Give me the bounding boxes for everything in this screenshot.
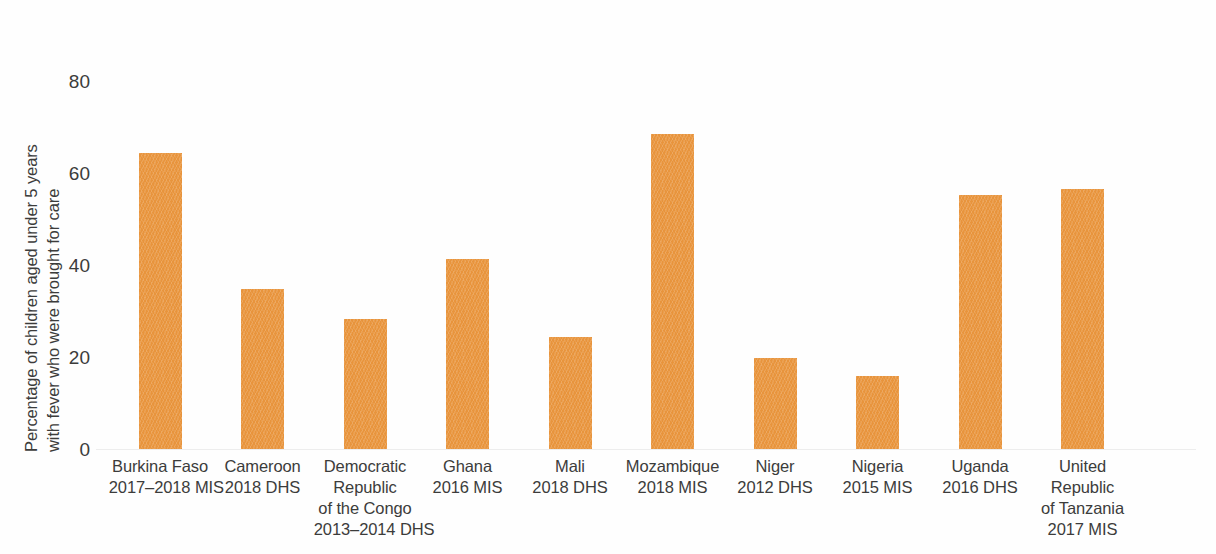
- x-axis-category-label-line: 2018 MIS: [621, 477, 724, 498]
- x-axis-category-label: Cameroon2018 DHS: [211, 456, 314, 498]
- x-axis-category-label: Uganda2016 DHS: [929, 456, 1032, 498]
- x-axis-category-label: Burkina Faso2017–2018 MIS: [109, 456, 212, 498]
- x-axis-category-label-line: Mozambique: [621, 456, 724, 477]
- x-axis-category-label-line: Burkina Faso: [109, 456, 212, 477]
- bar-slot: [651, 26, 694, 450]
- x-axis-category-label-line: United: [1031, 456, 1134, 477]
- x-axis-category-label: Niger2012 DHS: [724, 456, 827, 498]
- bar[interactable]: [754, 358, 797, 449]
- x-axis-category-label-line: Republic: [1031, 477, 1134, 498]
- y-axis-tick-labels: 020406080: [44, 0, 90, 470]
- y-axis-title-line-1: Percentage of children aged under 5 year…: [22, 144, 41, 452]
- bar-slot: [856, 26, 899, 450]
- y-tick-label: 80: [48, 72, 90, 91]
- x-axis-category-label-line: 2015 MIS: [826, 477, 929, 498]
- x-axis-category-label-line: 2016 DHS: [929, 477, 1032, 498]
- x-axis-category-label-line: 2017 MIS: [1031, 519, 1134, 540]
- x-axis-category-label-line: 2018 DHS: [519, 477, 622, 498]
- bar[interactable]: [344, 319, 387, 449]
- x-axis-category-label: Mozambique2018 MIS: [621, 456, 724, 498]
- x-axis-category-label-line: 2012 DHS: [724, 477, 827, 498]
- x-axis-category-label-line: of Tanzania: [1031, 498, 1134, 519]
- bar-slot: [754, 26, 797, 450]
- x-axis-category-label-line: 2018 DHS: [211, 477, 314, 498]
- bar-chart-figure: Percentage of children aged under 5 year…: [0, 0, 1216, 554]
- bar[interactable]: [446, 259, 489, 449]
- x-axis-category-label-line: 2017–2018 MIS: [109, 477, 212, 498]
- y-tick-label: 0: [48, 440, 90, 459]
- bar-slot: [549, 26, 592, 450]
- x-axis-category-label: UnitedRepublicof Tanzania2017 MIS: [1031, 456, 1134, 540]
- x-axis-category-label-line: Ghana: [416, 456, 519, 477]
- bar-slot: [959, 26, 1002, 450]
- x-axis-category-label: Mali2018 DHS: [519, 456, 622, 498]
- x-axis-category-label-line: of the Congo: [314, 498, 417, 519]
- x-axis-category-label-line: Democratic: [314, 456, 417, 477]
- plot-area: [96, 26, 1206, 450]
- y-tick-label: 20: [48, 348, 90, 367]
- x-axis-category-label: Nigeria2015 MIS: [826, 456, 929, 498]
- bar-slot: [139, 26, 182, 450]
- x-axis-category-label-line: Uganda: [929, 456, 1032, 477]
- bar[interactable]: [1061, 189, 1104, 449]
- x-axis-category-label-line: Mali: [519, 456, 622, 477]
- bar-slot: [344, 26, 387, 450]
- y-tick-label: 60: [48, 164, 90, 183]
- bar[interactable]: [139, 153, 182, 449]
- x-axis-category-label-line: Republic: [314, 477, 417, 498]
- bar-slot: [241, 26, 284, 450]
- x-axis-category-label: DemocraticRepublicof the Congo2013–2014 …: [314, 456, 417, 540]
- y-tick-label: 40: [48, 256, 90, 275]
- bar[interactable]: [241, 289, 284, 449]
- bar[interactable]: [959, 195, 1002, 449]
- x-axis-category-label-line: Cameroon: [211, 456, 314, 477]
- x-axis-category-label-line: Niger: [724, 456, 827, 477]
- bar-slot: [1061, 26, 1104, 450]
- bar[interactable]: [856, 376, 899, 449]
- bar[interactable]: [651, 134, 694, 449]
- x-axis-category-label: Ghana2016 MIS: [416, 456, 519, 498]
- x-axis-category-label-line: Nigeria: [826, 456, 929, 477]
- x-axis-category-label-line: 2013–2014 DHS: [314, 519, 417, 540]
- bar-slot: [446, 26, 489, 450]
- x-axis-category-label-line: 2016 MIS: [416, 477, 519, 498]
- bar[interactable]: [549, 337, 592, 449]
